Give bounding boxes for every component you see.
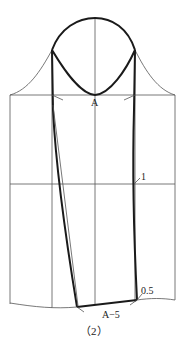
hem-right — [137, 299, 175, 301]
label-a: A — [91, 97, 99, 108]
label-hem-width: A−5 — [102, 309, 120, 320]
left-seam-thin — [53, 105, 78, 306]
figure-caption: （2） — [80, 325, 108, 337]
hem-left-tick — [77, 307, 84, 312]
left-cap-curve — [10, 50, 52, 95]
hem-left — [10, 303, 77, 308]
sleeve-cap-upper — [52, 18, 135, 50]
right-cap-curve — [135, 50, 175, 95]
label-0-5: 0.5 — [141, 285, 154, 296]
label-1: 1 — [141, 171, 146, 182]
sleeve-cap-under — [52, 50, 135, 95]
sleeve-diagram: A 1 0.5 A−5 （2） — [0, 0, 182, 340]
hem-bold — [77, 300, 137, 307]
